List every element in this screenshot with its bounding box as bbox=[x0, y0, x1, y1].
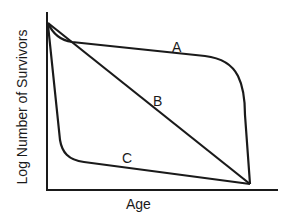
survivorship-diagram: A B C Age Log Number of Survivors bbox=[0, 0, 292, 223]
x-axis-label: Age bbox=[126, 196, 151, 212]
curve-b-label: B bbox=[153, 93, 162, 109]
curve-a-label: A bbox=[172, 39, 182, 55]
curve-c-label: C bbox=[122, 150, 132, 166]
y-axis-label: Log Number of Survivors bbox=[14, 30, 30, 185]
